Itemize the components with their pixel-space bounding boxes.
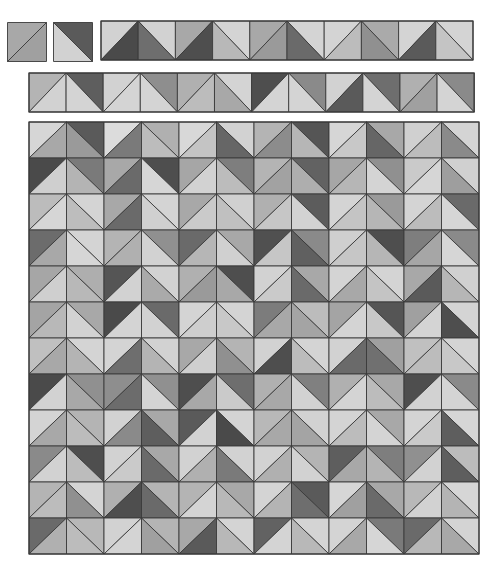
hst-block <box>104 518 142 554</box>
hst-block <box>29 73 66 112</box>
hst-block <box>177 73 214 112</box>
hst-block <box>67 338 105 374</box>
hst-block <box>104 374 142 410</box>
hst-block <box>437 73 474 112</box>
hst-block <box>254 410 292 446</box>
hst-block <box>404 158 442 194</box>
hst-block <box>179 446 217 482</box>
hst-block <box>8 23 47 62</box>
hst-block <box>29 194 67 230</box>
hst-block <box>67 230 105 266</box>
hst-block <box>442 482 480 518</box>
hst-block <box>404 194 442 230</box>
hst-block <box>104 230 142 266</box>
hst-block <box>104 194 142 230</box>
hst-block <box>292 482 330 518</box>
hst-block <box>404 122 442 158</box>
hst-block <box>54 23 93 62</box>
hst-block <box>29 230 67 266</box>
hst-block <box>442 338 480 374</box>
hst-block <box>367 122 405 158</box>
hst-block <box>104 410 142 446</box>
hst-block <box>292 374 330 410</box>
hst-block <box>254 482 292 518</box>
hst-block <box>254 338 292 374</box>
hst-block <box>29 338 67 374</box>
hst-block <box>104 122 142 158</box>
hst-block <box>442 230 480 266</box>
hst-block <box>175 21 212 60</box>
hst-block <box>436 21 473 60</box>
hst-block <box>140 73 177 112</box>
hst-block <box>66 73 103 112</box>
hst-block <box>404 446 442 482</box>
hst-block <box>367 482 405 518</box>
hst-block <box>142 302 180 338</box>
hst-block <box>217 518 255 554</box>
hst-block <box>329 230 367 266</box>
hst-block <box>104 482 142 518</box>
hst-block <box>292 518 330 554</box>
hst-block <box>367 230 405 266</box>
hst-block <box>442 158 480 194</box>
hst-block <box>217 158 255 194</box>
hst-block <box>442 374 480 410</box>
hst-block <box>104 302 142 338</box>
hst-block <box>250 21 287 60</box>
hst-block <box>142 194 180 230</box>
hst-block <box>179 122 217 158</box>
hst-block <box>292 266 330 302</box>
hst-block <box>179 374 217 410</box>
hst-block <box>324 21 361 60</box>
hst-block <box>367 410 405 446</box>
hst-block <box>142 230 180 266</box>
hst-block <box>104 338 142 374</box>
hst-block <box>142 410 180 446</box>
hst-block <box>404 266 442 302</box>
hst-block <box>367 158 405 194</box>
hst-block <box>217 482 255 518</box>
hst-block <box>287 21 324 60</box>
hst-block <box>217 302 255 338</box>
hst-block <box>292 194 330 230</box>
hst-block <box>29 446 67 482</box>
hst-block <box>142 122 180 158</box>
hst-block <box>67 518 105 554</box>
hst-block <box>367 374 405 410</box>
hst-block <box>217 446 255 482</box>
hst-block <box>101 21 138 60</box>
hst-block <box>442 410 480 446</box>
hst-block <box>179 338 217 374</box>
hst-block <box>217 122 255 158</box>
hst-block <box>404 338 442 374</box>
hst-block <box>142 266 180 302</box>
hst-block <box>289 73 326 112</box>
hst-block <box>292 410 330 446</box>
hst-block <box>142 446 180 482</box>
quilt-main-grid <box>28 121 480 555</box>
hst-block <box>292 158 330 194</box>
hst-block <box>292 446 330 482</box>
hst-block <box>329 158 367 194</box>
hst-block <box>329 446 367 482</box>
hst-block <box>404 482 442 518</box>
hst-block <box>326 73 363 112</box>
hst-block <box>442 446 480 482</box>
hst-block <box>104 446 142 482</box>
hst-block <box>254 374 292 410</box>
hst-block <box>103 73 140 112</box>
hst-block <box>404 518 442 554</box>
hst-block <box>217 338 255 374</box>
hst-block <box>67 194 105 230</box>
hst-block <box>399 21 436 60</box>
hst-block <box>67 122 105 158</box>
hst-block <box>217 374 255 410</box>
hst-block <box>442 194 480 230</box>
hst-block <box>217 266 255 302</box>
hst-block <box>254 158 292 194</box>
hst-block <box>214 73 251 112</box>
hst-block <box>29 122 67 158</box>
hst-block <box>329 122 367 158</box>
hst-block <box>400 73 437 112</box>
hst-block <box>67 302 105 338</box>
